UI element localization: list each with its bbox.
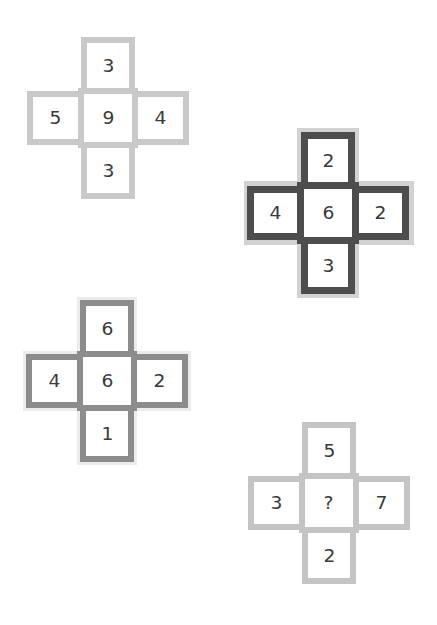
cell-value: 3 bbox=[271, 493, 283, 513]
cell-value: 2 bbox=[154, 371, 166, 391]
cell-top: 5 bbox=[302, 422, 356, 479]
cell-value: 5 bbox=[50, 108, 62, 128]
cell-left: 3 bbox=[248, 476, 305, 530]
cell-value: 7 bbox=[376, 493, 388, 513]
cell-value: 3 bbox=[102, 161, 114, 181]
cell-value: 4 bbox=[270, 203, 282, 223]
cell-right: 7 bbox=[353, 476, 410, 530]
cell-left: 4 bbox=[247, 186, 304, 240]
cell-value: 6 bbox=[322, 203, 334, 223]
cell-bottom: 2 bbox=[302, 527, 356, 584]
cell-value: 2 bbox=[375, 203, 387, 223]
cell-top: 2 bbox=[301, 132, 355, 189]
cell-value: 2 bbox=[322, 151, 334, 171]
number-cross-4-question: 5 3 7 2 ? bbox=[248, 422, 410, 585]
cell-center: 6 bbox=[80, 354, 134, 408]
cell-bottom: 3 bbox=[301, 237, 355, 294]
cell-top: 6 bbox=[80, 300, 134, 357]
cell-center-unknown: ? bbox=[302, 476, 356, 530]
cell-right: 2 bbox=[131, 354, 188, 408]
cell-value: 4 bbox=[49, 371, 61, 391]
cell-bottom: 3 bbox=[81, 142, 135, 199]
cell-value: 3 bbox=[322, 256, 334, 276]
number-cross-3: 6 4 2 1 6 bbox=[26, 300, 188, 463]
cell-value: 4 bbox=[155, 108, 167, 128]
number-cross-1: 3 5 4 3 9 bbox=[27, 37, 189, 200]
cell-bottom: 1 bbox=[80, 405, 134, 462]
cell-right: 4 bbox=[132, 91, 189, 145]
cell-top: 3 bbox=[81, 37, 135, 94]
cell-value: 5 bbox=[323, 441, 335, 461]
cell-left: 5 bbox=[27, 91, 84, 145]
cell-value: 1 bbox=[101, 424, 113, 444]
number-cross-2: 2 4 2 3 6 bbox=[247, 132, 409, 295]
question-mark: ? bbox=[324, 493, 334, 513]
cell-value: 6 bbox=[101, 371, 113, 391]
cell-value: 3 bbox=[102, 56, 114, 76]
cell-value: 9 bbox=[102, 108, 114, 128]
cell-center: 6 bbox=[301, 186, 355, 240]
cell-center: 9 bbox=[81, 91, 135, 145]
cell-right: 2 bbox=[352, 186, 409, 240]
cell-value: 6 bbox=[101, 319, 113, 339]
cell-value: 2 bbox=[323, 546, 335, 566]
cell-left: 4 bbox=[26, 354, 83, 408]
